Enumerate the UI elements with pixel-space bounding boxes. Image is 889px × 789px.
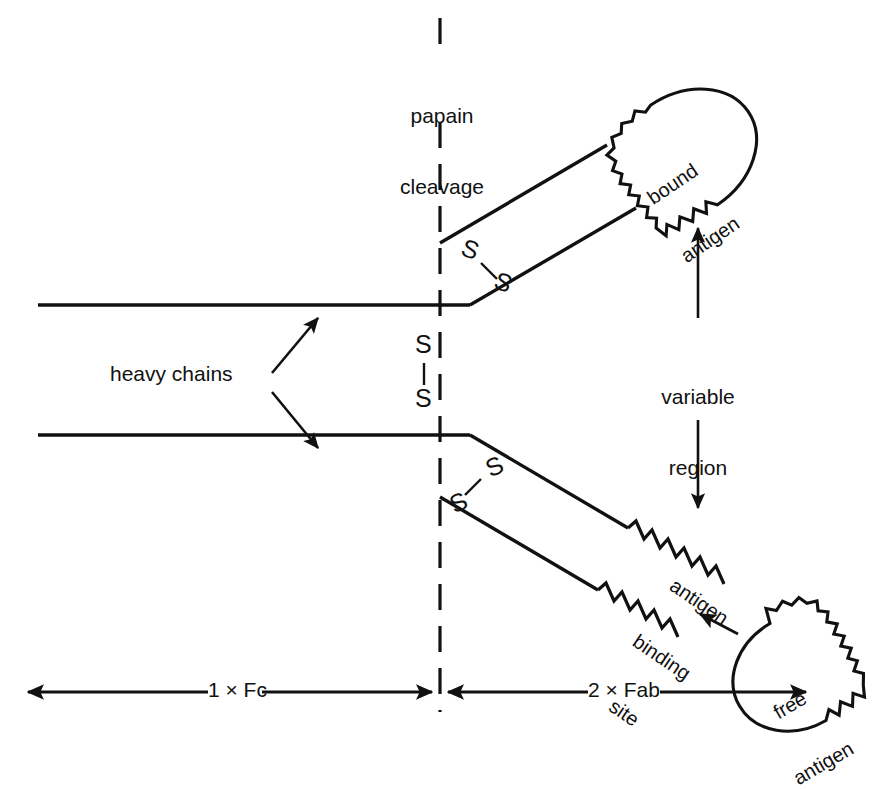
upper-disulfide-connector [481, 263, 497, 279]
heavy-chains-arrow-up [272, 318, 318, 373]
heavy-chains-label: heavy chains [110, 362, 233, 386]
bound-antigen-line1: bound [621, 144, 725, 224]
free-antigen-line1: free [738, 669, 841, 741]
fc-measure-label: 1 × Fc [208, 678, 262, 702]
center-disulfide-s-bottom: S [415, 384, 432, 412]
heavy-chains-arrow-down [272, 392, 318, 448]
papain-cleavage-line1: papain [382, 104, 502, 128]
lower-disulfide-connector [465, 479, 481, 495]
free-antigen-line2: antigen [772, 727, 875, 789]
center-disulfide-s-top: S [415, 330, 432, 358]
papain-cleavage-label: papain cleavage [382, 57, 502, 222]
antigen-binding-line1: antigen [643, 559, 755, 645]
variable-region-label: variable region [638, 338, 758, 503]
variable-region-line1: variable [638, 385, 758, 409]
papain-cleavage-line2: cleavage [382, 175, 502, 199]
fab-measure-label: 2 × Fab [586, 678, 662, 702]
variable-region-line2: region [638, 456, 758, 480]
